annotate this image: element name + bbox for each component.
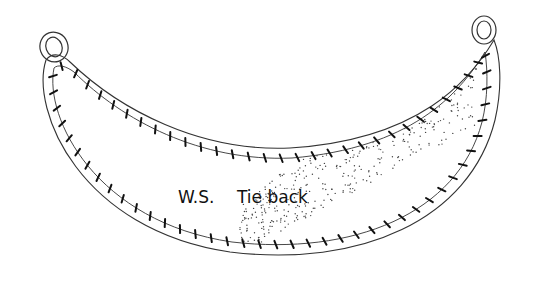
stitch-mark	[140, 118, 141, 126]
tie-back-label: Tie back	[236, 187, 308, 207]
stitch-mark	[443, 98, 450, 102]
stitch-mark	[211, 234, 212, 242]
stitch-mark	[465, 74, 473, 77]
stitch-mark	[478, 120, 486, 121]
stitch-mark	[389, 132, 395, 138]
stitch-mark	[481, 103, 489, 105]
stitch-mark	[61, 62, 63, 70]
stitch-mark	[232, 150, 234, 158]
stitch-mark	[109, 185, 112, 193]
stitch-mark	[86, 81, 89, 89]
stitch-mark	[248, 153, 250, 161]
stitch-mark	[384, 221, 390, 227]
stitch-mark	[216, 147, 217, 155]
stitch-mark	[74, 70, 77, 77]
stitch-mark	[369, 227, 374, 233]
stitch-mark	[150, 212, 151, 220]
stitch-mark	[449, 176, 457, 179]
stitch-mark	[122, 195, 124, 203]
stitch-mark	[99, 91, 101, 99]
stitch-mark	[459, 164, 467, 166]
stitch-mark	[274, 241, 277, 249]
stitch-mark	[226, 237, 228, 245]
stitch-mark	[59, 121, 65, 127]
stitch-mark	[454, 87, 461, 90]
stitch-mark	[483, 87, 491, 90]
stitch-mark	[126, 110, 128, 118]
stitch-mark	[474, 62, 482, 64]
outer-edge	[43, 40, 500, 255]
stitch-mark	[374, 137, 379, 143]
stitch-mark	[67, 135, 72, 141]
stitch-mark	[201, 143, 202, 151]
stitch-mark	[242, 239, 244, 247]
stitch-mark	[258, 240, 261, 248]
right-ring-outer	[472, 16, 496, 44]
stitch-mark	[280, 155, 283, 163]
stitch-mark	[49, 75, 57, 77]
right-ring-inner	[477, 21, 491, 39]
stitch-mark	[404, 125, 410, 130]
stitch-mark	[399, 215, 405, 220]
stitch-mark	[264, 154, 266, 162]
stitch-mark	[97, 174, 100, 181]
stitch-mark	[359, 142, 364, 148]
stitch-mark	[467, 150, 475, 151]
tie-back-diagram: W.S. Tie back	[0, 0, 538, 282]
stitch-mark	[195, 230, 196, 238]
stitch-mark	[85, 162, 89, 169]
stipple-shading	[239, 63, 478, 243]
stitch-mark	[438, 188, 445, 192]
wrong-side-label: W.S.	[178, 187, 214, 207]
stitch-mark	[135, 204, 137, 212]
stitch-mark	[112, 101, 114, 109]
stitch-marks	[49, 54, 491, 249]
stitch-mark	[155, 125, 156, 133]
left-ring-outer	[36, 28, 73, 66]
